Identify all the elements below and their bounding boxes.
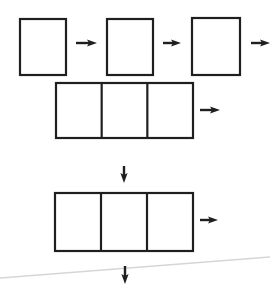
- combined-box-1: [56, 83, 193, 138]
- diagram-page: [0, 0, 270, 286]
- process-box-1: [20, 19, 66, 75]
- combined-box-2: [55, 193, 193, 251]
- flow-diagram: [0, 0, 270, 286]
- process-box-2: [107, 19, 153, 75]
- process-box-3: [192, 18, 240, 75]
- scan-crease-line: [0, 257, 270, 278]
